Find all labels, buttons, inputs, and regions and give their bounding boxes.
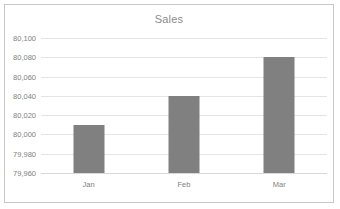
x-axis-line — [41, 173, 327, 174]
bar-series: JanFebMar — [41, 38, 327, 173]
bar-slot: Feb — [136, 38, 231, 173]
y-axis-tick-label: 80,020 — [13, 111, 36, 120]
x-axis-tick-label: Feb — [178, 180, 191, 189]
x-axis-tick-label: Mar — [273, 180, 286, 189]
bar-slot: Jan — [41, 38, 136, 173]
plot-area: 80,10080,08080,06080,04080,02080,00079,9… — [41, 38, 327, 173]
bar[interactable] — [264, 57, 295, 173]
chart-frame: Sales 80,10080,08080,06080,04080,02080,0… — [4, 4, 334, 203]
y-axis-tick-label: 79,960 — [13, 169, 36, 178]
chart-title: Sales — [5, 13, 333, 25]
bar[interactable] — [73, 125, 104, 173]
y-axis-tick-label: 80,060 — [13, 72, 36, 81]
y-axis-tick-label: 80,040 — [13, 91, 36, 100]
y-axis-tick-label: 80,080 — [13, 53, 36, 62]
bar-slot: Mar — [232, 38, 327, 173]
y-axis-tick-label: 79,980 — [13, 149, 36, 158]
bar[interactable] — [168, 96, 199, 173]
x-axis-tick-label: Jan — [83, 180, 95, 189]
y-axis-tick-label: 80,100 — [13, 34, 36, 43]
y-axis-tick-label: 80,000 — [13, 130, 36, 139]
